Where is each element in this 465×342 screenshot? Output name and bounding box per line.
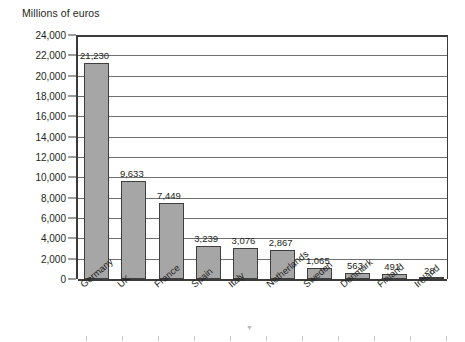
chart-title: Millions of euros (22, 7, 100, 19)
y-axis-tick-mark (68, 258, 76, 259)
crop-artifact-tick (86, 336, 87, 341)
crop-artifact-ticks (0, 336, 465, 342)
y-axis-tick-mark (68, 157, 76, 158)
crop-artifact-tick (374, 336, 375, 341)
crop-artifact-tick (194, 336, 195, 341)
y-axis-tick-mark (68, 197, 76, 198)
y-axis-tick-mark (68, 116, 76, 117)
y-axis-tick-mark (68, 218, 76, 219)
bars (78, 35, 447, 279)
bar-germany[interactable] (84, 63, 109, 279)
y-axis-tick-mark (68, 55, 76, 56)
crop-artifact-tick (230, 336, 231, 341)
y-axis-tick-mark (68, 136, 76, 137)
y-axis-tick-mark (68, 35, 76, 36)
x-axis-category-labels: GermanyUKFranceSpainItalyNetherlandsSwed… (76, 281, 448, 337)
y-axis-tick-mark (68, 238, 76, 239)
crop-artifact-tick (158, 336, 159, 341)
crop-artifact-tick (302, 336, 303, 341)
y-axis-ticks (0, 35, 80, 279)
y-axis-tick-mark (68, 75, 76, 76)
y-axis-tick-mark (68, 177, 76, 178)
crop-artifact-tick (410, 336, 411, 341)
crop-artifact-tick (338, 336, 339, 341)
plot-area (76, 35, 448, 279)
crop-artifact-tick (446, 336, 447, 341)
crop-artifact-arrow-icon: ▼ (246, 325, 253, 330)
y-axis-tick-mark (68, 96, 76, 97)
crop-artifact-tick (266, 336, 267, 341)
crop-artifact-tick (122, 336, 123, 341)
bar-uk[interactable] (121, 181, 146, 279)
y-axis-tick-mark (68, 279, 76, 280)
bar-chart: Millions of euros 24,00022,00020,00018,0… (0, 0, 465, 342)
